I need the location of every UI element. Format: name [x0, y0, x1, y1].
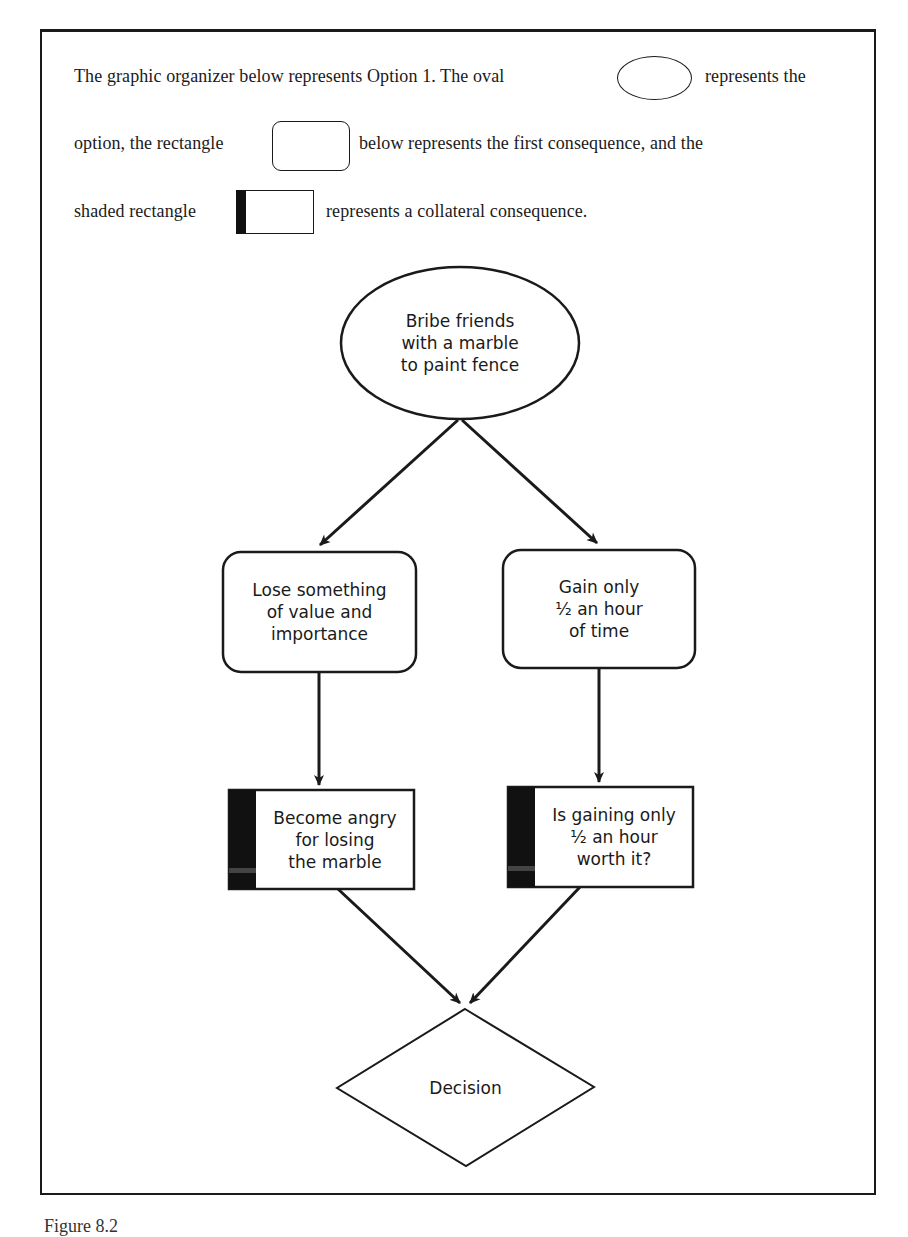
option-text: Bribe friends with a marble to paint fen… [341, 267, 579, 419]
collateral-left-text: Become angry for losing the marble [256, 790, 414, 889]
figure-caption: Figure 8.2 [44, 1216, 118, 1237]
consequence-left-text: Lose something of value and importance [223, 552, 416, 672]
arrow-option-to-left [320, 420, 458, 545]
collateral-right-shade [508, 787, 535, 887]
arrow-left-to-decision [338, 889, 460, 1003]
consequence-right-text: Gain only ½ an hour of time [503, 550, 695, 668]
arrow-right-to-decision [470, 887, 580, 1003]
collateral-left-shade [229, 790, 256, 889]
decision-text: Decision [337, 1009, 594, 1166]
arrow-option-to-right [462, 420, 597, 543]
collateral-right-text: Is gaining only ½ an hour worth it? [535, 787, 693, 887]
